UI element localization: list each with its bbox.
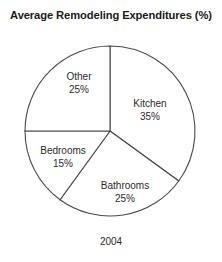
pie-label-name: Bedrooms [40,145,86,158]
pie-label-value: 15% [40,157,86,170]
pie-chart-figure: Average Remodeling Expenditures (%) Kitc… [0,0,222,262]
pie-label-name: Other [66,71,91,84]
pie-label-value: 25% [101,192,149,205]
pie-label-value: 35% [133,110,166,123]
pie-label-value: 25% [66,83,91,96]
pie-label-name: Bathrooms [101,180,149,193]
pie-label-other: Other25% [66,71,91,96]
chart-caption-year: 2004 [0,236,222,247]
pie-plot-area: Kitchen35%Bathrooms25%Bedrooms15%Other25… [0,0,222,262]
pie-label-bathrooms: Bathrooms25% [101,180,149,205]
pie-label-kitchen: Kitchen35% [133,98,166,123]
pie-label-bedrooms: Bedrooms15% [40,145,86,170]
pie-label-name: Kitchen [133,98,166,111]
pie-svg [0,0,222,262]
